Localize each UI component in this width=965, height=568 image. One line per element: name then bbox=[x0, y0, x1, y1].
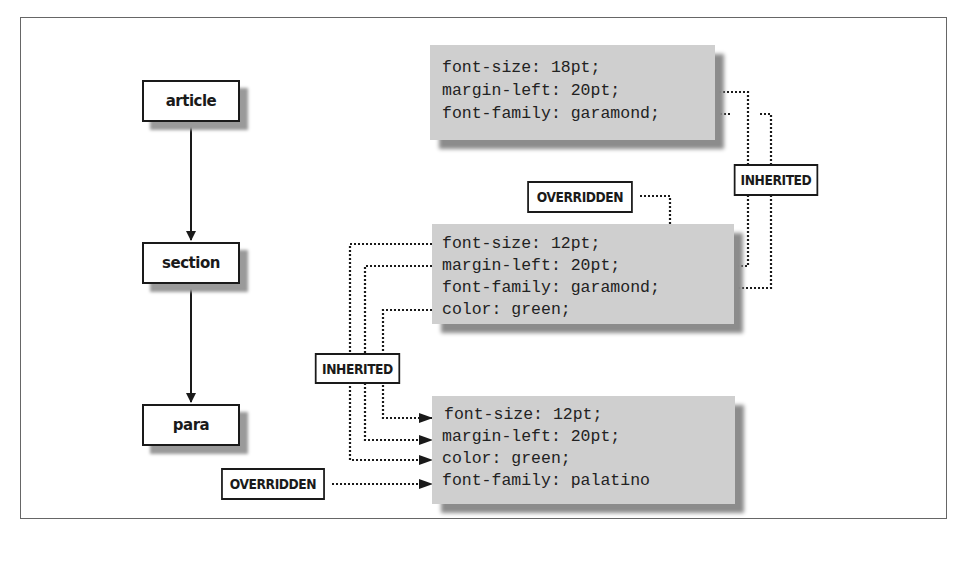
style-line: font-size: 18pt; bbox=[442, 58, 600, 78]
style-line: font-family: garamond; bbox=[442, 104, 660, 124]
node-para: para bbox=[142, 404, 240, 446]
style-block-para: font-size: 12pt; margin-left: 20pt; colo… bbox=[432, 396, 735, 504]
style-block-section: font-size: 12pt; margin-left: 20pt; font… bbox=[432, 224, 734, 324]
style-line: font-family: garamond; bbox=[442, 278, 660, 298]
style-line: margin-left: 20pt; bbox=[442, 427, 620, 447]
node-para-label: para bbox=[173, 416, 209, 434]
style-line: margin-left: 20pt; bbox=[442, 81, 620, 101]
style-line: color: green; bbox=[442, 300, 571, 320]
node-article-label: article bbox=[166, 92, 217, 110]
style-line: font-size: 12pt; bbox=[442, 234, 600, 254]
label-inherited-right: INHERITED bbox=[734, 164, 818, 196]
style-line: font-size: 12pt; bbox=[444, 405, 602, 425]
node-section: section bbox=[142, 242, 240, 284]
style-block-article: font-size: 18pt; margin-left: 20pt; font… bbox=[430, 45, 715, 140]
node-section-label: section bbox=[162, 254, 220, 272]
style-line: margin-left: 20pt; bbox=[442, 256, 620, 276]
style-line: color: green; bbox=[442, 449, 571, 469]
node-article: article bbox=[142, 80, 240, 122]
label-inherited-left: INHERITED bbox=[315, 353, 400, 384]
label-overridden-top: OVERRIDDEN bbox=[527, 181, 633, 213]
label-overridden-bottom: OVERRIDDEN bbox=[221, 468, 325, 500]
style-line: font-family: palatino bbox=[442, 471, 650, 491]
